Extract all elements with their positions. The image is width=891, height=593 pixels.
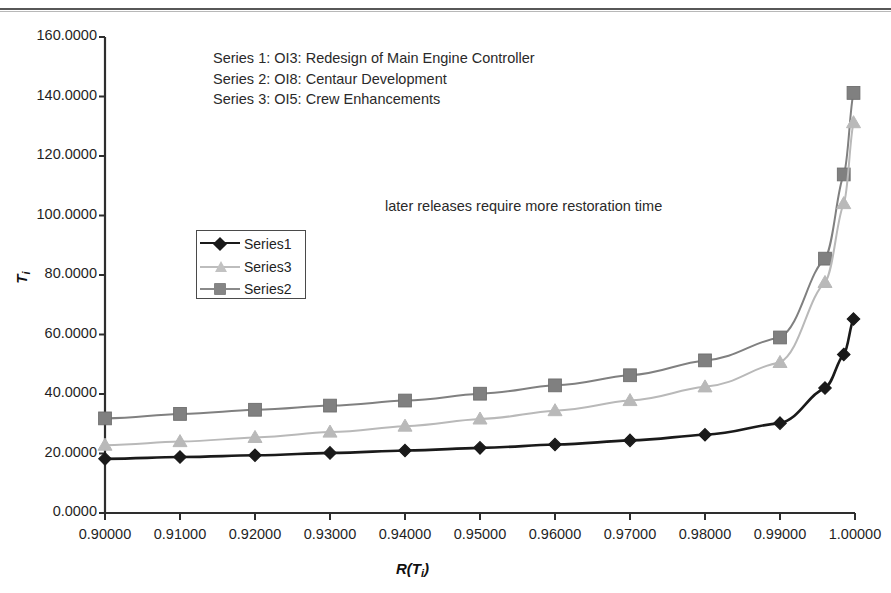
chart-figure: 0.000020.000040.000060.000080.0000100.00… [0,0,891,593]
x-tick-label: 0.98000 [662,526,748,542]
legend-label-series3: Series3 [244,259,291,275]
x-tick-label: 1.00000 [812,526,891,542]
chart-legend: Series1 Series3 Series2 [196,230,306,299]
legend-label-series2: Series2 [244,281,291,297]
series-description-3: Series 3: OI5: Crew Enhancements [213,89,535,110]
x-axis-title: R(Ti) [396,560,429,579]
legend-marker-diamond-icon [197,235,243,253]
y-tick-label: 40.0000 [5,384,97,400]
legend-label-series1: Series1 [244,236,291,252]
series-description-block: Series 1: OI3: Redesign of Main Engine C… [213,48,535,110]
legend-item-series2[interactable]: Series2 [197,277,307,300]
x-tick-label: 0.95000 [437,526,523,542]
series-description-1: Series 1: OI3: Redesign of Main Engine C… [213,48,535,69]
y-tick-label: 140.0000 [5,87,97,103]
legend-marker-square-icon [197,280,243,298]
y-tick-label: 0.0000 [5,503,97,519]
y-tick-label: 20.0000 [5,444,97,460]
chart-annotation: later releases require more restoration … [385,198,662,214]
x-tick-label: 0.92000 [212,526,298,542]
x-tick-label: 0.97000 [587,526,673,542]
x-tick-label: 0.91000 [137,526,223,542]
y-tick-label: 120.0000 [5,146,97,162]
legend-item-series1[interactable]: Series1 [197,232,307,255]
legend-item-series3[interactable]: Series3 [197,255,307,278]
series-description-2: Series 2: OI8: Centaur Development [213,69,535,90]
x-tick-label: 0.90000 [62,526,148,542]
x-tick-label: 0.94000 [362,526,448,542]
y-tick-label: 60.0000 [5,325,97,341]
x-tick-label: 0.93000 [287,526,373,542]
y-tick-label: 160.0000 [5,27,97,43]
x-tick-label: 0.99000 [737,526,823,542]
y-tick-label: 100.0000 [5,206,97,222]
y-axis-title: Ti [13,248,32,308]
x-tick-label: 0.96000 [512,526,598,542]
legend-marker-triangle-icon [197,258,243,276]
